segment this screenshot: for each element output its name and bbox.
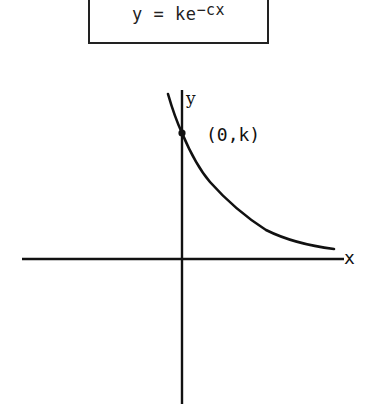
- x-axis-label: x: [344, 247, 355, 268]
- point-marker: [178, 129, 185, 136]
- y-axis-label: y: [186, 88, 196, 108]
- decay-curve: [168, 94, 334, 249]
- point-label: (0,k): [206, 124, 260, 145]
- graph: [0, 0, 378, 404]
